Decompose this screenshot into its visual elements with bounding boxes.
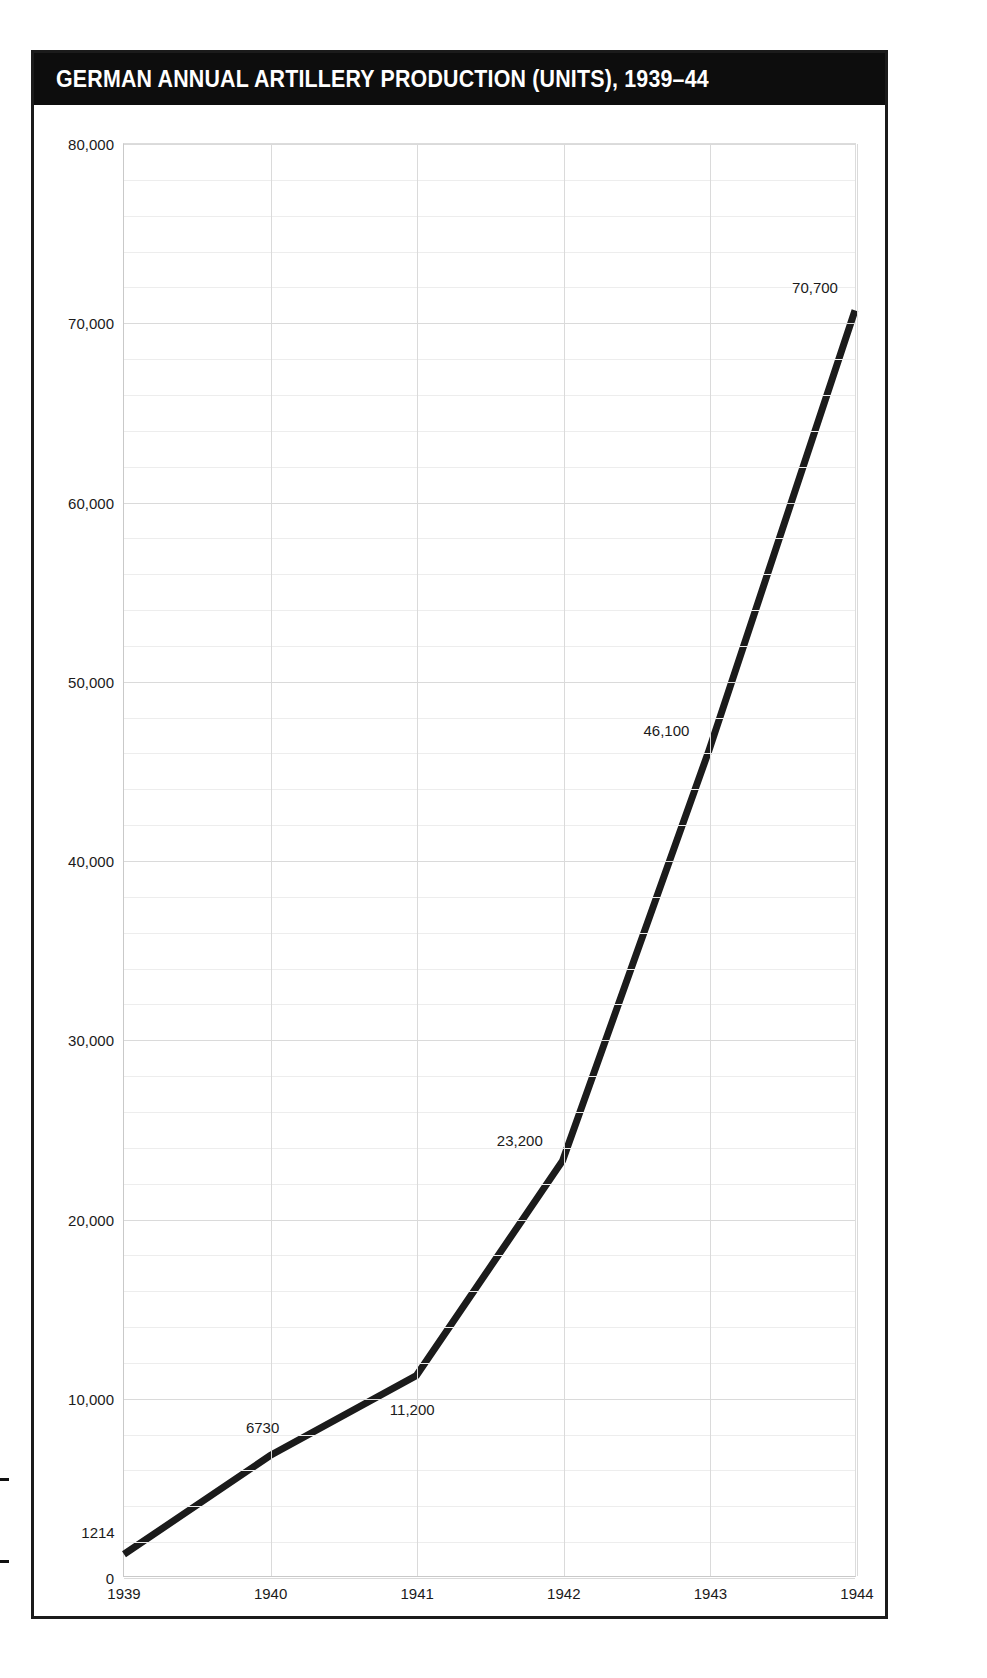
data-point-label: 46,100 [643, 721, 689, 738]
x-axis-tick-label: 1942 [547, 1585, 580, 1602]
x-axis-tick-label: 1939 [107, 1585, 140, 1602]
gridline-vertical [417, 144, 418, 1576]
gridline-minor-horizontal [124, 1112, 855, 1113]
page-edge-mark-top [0, 1478, 9, 1481]
y-axis-tick-label: 50,000 [68, 673, 114, 690]
gridline-minor-horizontal [124, 252, 855, 253]
gridline-vertical [271, 144, 272, 1576]
gridline-minor-horizontal [124, 969, 855, 970]
gridline-vertical [710, 144, 711, 1576]
data-point-label: 23,200 [497, 1132, 543, 1149]
x-axis-tick-label: 1943 [694, 1585, 727, 1602]
data-point-label: 1214 [81, 1524, 114, 1541]
gridline-minor-horizontal [124, 467, 855, 468]
data-point-label: 70,700 [792, 278, 838, 295]
y-axis-tick-label: 10,000 [68, 1390, 114, 1407]
gridline-vertical [857, 144, 858, 1576]
gridline-minor-horizontal [124, 1148, 855, 1149]
gridline-major-horizontal [124, 1040, 855, 1041]
gridline-major-horizontal [124, 144, 855, 145]
gridline-major-horizontal [124, 503, 855, 504]
gridline-minor-horizontal [124, 718, 855, 719]
gridline-minor-horizontal [124, 1542, 855, 1543]
gridline-minor-horizontal [124, 1004, 855, 1005]
x-axis-tick-label: 1944 [840, 1585, 873, 1602]
gridline-minor-horizontal [124, 1184, 855, 1185]
y-axis-tick-label: 20,000 [68, 1211, 114, 1228]
gridline-vertical [564, 144, 565, 1576]
y-axis-tick-label: 70,000 [68, 315, 114, 332]
title-banner: GERMAN ANNUAL ARTILLERY PRODUCTION (UNIT… [34, 53, 885, 105]
gridline-minor-horizontal [124, 1255, 855, 1256]
gridline-minor-horizontal [124, 646, 855, 647]
y-axis-tick-label: 40,000 [68, 853, 114, 870]
gridline-minor-horizontal [124, 610, 855, 611]
gridline-minor-horizontal [124, 789, 855, 790]
gridline-major-horizontal [124, 323, 855, 324]
y-axis-tick-label: 80,000 [68, 136, 114, 153]
gridline-major-horizontal [124, 1578, 855, 1579]
x-axis-tick-label: 1940 [254, 1585, 287, 1602]
chart-title: GERMAN ANNUAL ARTILLERY PRODUCTION (UNIT… [56, 66, 758, 93]
plot-area: 010,00020,00030,00040,00050,00060,00070,… [123, 143, 856, 1577]
gridline-minor-horizontal [124, 1506, 855, 1507]
gridline-minor-horizontal [124, 287, 855, 288]
gridline-minor-horizontal [124, 216, 855, 217]
y-axis-tick-label: 60,000 [68, 494, 114, 511]
gridline-minor-horizontal [124, 1470, 855, 1471]
gridline-minor-horizontal [124, 897, 855, 898]
gridline-minor-horizontal [124, 574, 855, 575]
y-axis-tick-label: 30,000 [68, 1032, 114, 1049]
data-point-label: 11,200 [390, 1401, 435, 1418]
chart-figure: GERMAN ANNUAL ARTILLERY PRODUCTION (UNIT… [31, 50, 888, 1619]
x-axis-tick-label: 1941 [401, 1585, 434, 1602]
gridline-major-horizontal [124, 861, 855, 862]
chart-title-text: GERMAN ANNUAL ARTILLERY PRODUCTION (UNIT… [56, 66, 709, 93]
gridline-minor-horizontal [124, 431, 855, 432]
gridline-minor-horizontal [124, 359, 855, 360]
gridline-minor-horizontal [124, 1327, 855, 1328]
y-axis-tick-label: 0 [106, 1570, 114, 1587]
gridline-major-horizontal [124, 1220, 855, 1221]
gridline-minor-horizontal [124, 395, 855, 396]
gridline-minor-horizontal [124, 1076, 855, 1077]
data-point-label: 6730 [246, 1419, 279, 1436]
gridline-major-horizontal [124, 682, 855, 683]
gridline-minor-horizontal [124, 753, 855, 754]
gridline-minor-horizontal [124, 933, 855, 934]
page-edge-mark-bottom [0, 1560, 9, 1563]
gridline-minor-horizontal [124, 1291, 855, 1292]
gridline-minor-horizontal [124, 1435, 855, 1436]
gridline-minor-horizontal [124, 538, 855, 539]
gridline-minor-horizontal [124, 825, 855, 826]
gridline-minor-horizontal [124, 180, 855, 181]
gridline-major-horizontal [124, 1399, 855, 1400]
gridline-minor-horizontal [124, 1363, 855, 1364]
